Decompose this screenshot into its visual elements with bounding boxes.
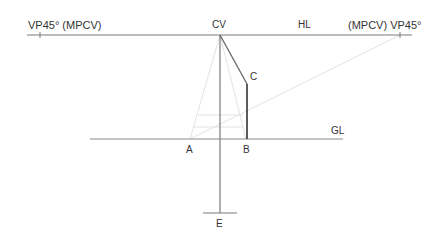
point-c-label: C (250, 72, 257, 82)
hl-label: HL (298, 20, 311, 30)
cv-to-c-line (220, 35, 247, 84)
vp-left-label: VP45° (MPCV) (28, 20, 101, 31)
perspective-diagram (0, 0, 443, 237)
point-b-label: B (243, 145, 250, 155)
vp-right-label: (MPCV) VP45° (348, 20, 421, 31)
construction-lines (190, 35, 400, 139)
gl-label: GL (331, 126, 344, 136)
cv-to-b-line (220, 35, 246, 139)
point-e-label: E (216, 219, 223, 229)
point-a-label: A (186, 145, 193, 155)
diagonal-to-vp-right (190, 35, 400, 139)
cv-to-a-line (190, 35, 220, 139)
cv-label: CV (212, 20, 226, 30)
